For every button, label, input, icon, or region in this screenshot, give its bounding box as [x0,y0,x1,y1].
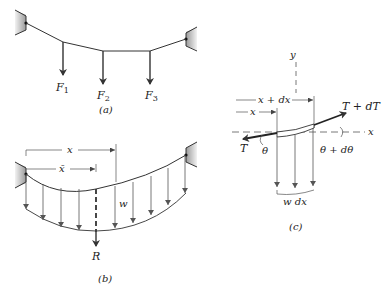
label-f1: F1 [55,81,69,95]
caption-b: (b) [98,273,112,284]
label-w: w [119,198,128,209]
label-tension-t: T [240,142,249,155]
left-wall-support-icon [15,10,28,35]
label-theta: θ [262,145,268,156]
cable-b [26,155,186,191]
load-envelope [26,193,186,231]
tension-left-arrow [243,133,277,139]
cable-statics-diagram: F1 F2 F3 (a) x x̄ [0,0,391,304]
label-axis-y: y [289,49,296,60]
tension-right-arrow [314,113,346,125]
distributed-load-arrows [26,156,185,230]
label-r: R [91,250,100,263]
label-f3: F3 [144,89,158,103]
label-x: x [67,144,73,155]
figure-b: x x̄ w R (b) [15,142,197,284]
figure-c: y x x + dx x T T + dT θ θ + dθ [232,49,382,232]
right-wall-support-icon [184,142,197,167]
label-tension-t-plus-dt: T + dT [342,100,382,113]
label-axis-x: x [368,126,374,137]
label-x: x [250,106,256,117]
label-x-plus-dx: x + dx [258,94,291,105]
label-w-dx: w dx [283,196,307,207]
caption-c: (c) [289,221,303,232]
right-wall-support-icon [184,27,197,51]
label-theta-plus-dtheta: θ + dθ [320,144,353,155]
label-xbar: x̄ [59,163,65,174]
figure-a: F1 F2 F3 (a) [15,10,197,115]
caption-a: (a) [99,104,113,115]
label-f2: F2 [96,89,110,103]
cable-a [26,23,186,51]
cable-element [277,124,314,137]
